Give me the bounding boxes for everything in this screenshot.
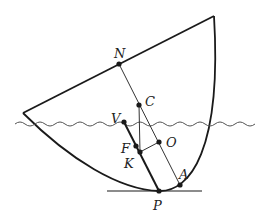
line-CK xyxy=(139,105,140,152)
parabola-curve xyxy=(23,16,215,191)
water-surface xyxy=(15,122,255,126)
line-KO xyxy=(140,142,159,152)
point-O xyxy=(156,139,161,144)
point-C xyxy=(136,102,141,107)
diagram-canvas: N C V O F K A P xyxy=(0,0,263,222)
point-A xyxy=(177,182,182,187)
label-O: O xyxy=(166,135,177,150)
point-K xyxy=(137,149,142,154)
label-N: N xyxy=(113,46,126,61)
label-K: K xyxy=(123,156,135,171)
label-V: V xyxy=(111,111,122,126)
label-C: C xyxy=(145,94,155,109)
label-F: F xyxy=(120,141,131,156)
point-P xyxy=(156,188,161,193)
point-V xyxy=(121,119,126,124)
point-N xyxy=(116,61,121,66)
label-P: P xyxy=(152,198,162,213)
point-F xyxy=(133,143,138,148)
label-A: A xyxy=(178,167,188,182)
